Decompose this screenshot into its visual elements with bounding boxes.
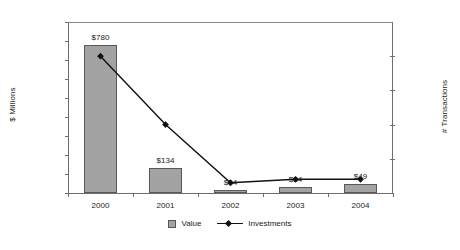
plot-area: $900$800$700$600$500$400$300$200$100$0 5…	[68, 22, 393, 194]
investments-line-icon	[217, 220, 243, 228]
legend-item-investments[interactable]: Investments	[217, 219, 291, 228]
chart-container: $ Millions # Transactions $900$800$700$6…	[0, 0, 460, 250]
legend-label-value: Value	[181, 219, 201, 228]
x-tick-label: 2003	[266, 201, 326, 210]
x-tick-label: 2001	[136, 201, 196, 210]
investments-line	[101, 56, 361, 183]
y-axis-title-left: $ Millions	[8, 60, 17, 150]
line-series-investments	[68, 22, 393, 194]
x-tick-label: 2000	[71, 201, 131, 210]
legend-item-value[interactable]: Value	[168, 219, 201, 228]
line-data-point[interactable]	[292, 176, 299, 183]
y-axis-title-right: # Transactions	[440, 62, 449, 152]
investments-markers	[97, 53, 364, 186]
legend-label-investments: Investments	[248, 219, 291, 228]
x-tick-label: 2004	[331, 201, 391, 210]
x-tick-label: 2002	[201, 201, 261, 210]
x-tick-mark	[393, 193, 394, 197]
line-data-point[interactable]	[357, 176, 364, 183]
value-swatch-icon	[168, 220, 176, 228]
chart-legend: Value Investments	[0, 219, 460, 228]
